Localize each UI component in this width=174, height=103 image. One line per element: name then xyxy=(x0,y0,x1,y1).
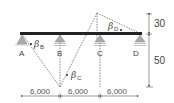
svg-text:β: β xyxy=(107,21,113,31)
svg-text:B: B xyxy=(40,44,44,50)
support-a xyxy=(15,35,29,45)
angle-beta-d: β D xyxy=(107,21,122,32)
svg-text:β: β xyxy=(70,70,76,80)
dim-30: 30 xyxy=(154,18,166,29)
support-b xyxy=(54,35,66,46)
dim-cd: 6,000 xyxy=(107,87,128,96)
svg-text:β: β xyxy=(33,39,39,49)
svg-text:C: C xyxy=(77,75,82,81)
support-d xyxy=(134,35,146,46)
deflected-shape-lines xyxy=(22,13,141,87)
beam xyxy=(20,32,142,35)
beam-diagram: A B C D β B β C β D 6,000 6,000 6,000 30… xyxy=(0,0,174,103)
vertical-dimensions xyxy=(146,14,153,87)
dim-ab: 6,000 xyxy=(30,87,51,96)
support-label-b: B xyxy=(57,49,62,58)
dim-bc: 6,000 xyxy=(68,87,89,96)
svg-text:D: D xyxy=(114,26,119,32)
dim-50: 50 xyxy=(154,55,166,66)
support-label-d: D xyxy=(133,49,139,58)
support-label-a: A xyxy=(19,49,25,58)
angle-beta-c: β C xyxy=(66,70,82,81)
support-label-c: C xyxy=(97,49,103,58)
